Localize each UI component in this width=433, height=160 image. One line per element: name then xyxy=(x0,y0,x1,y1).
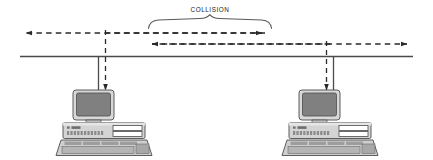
disk-drive-bay-upper xyxy=(113,126,142,131)
keyboard-main-area xyxy=(62,147,134,154)
front-panel-badge xyxy=(298,126,307,129)
keyboard-numpad xyxy=(136,144,149,154)
diagram-canvas: COLLISION xyxy=(0,0,433,160)
disk-drive-bay-lower xyxy=(113,132,142,137)
monitor-screen xyxy=(77,93,111,116)
station-right xyxy=(282,41,378,156)
station-left-computer xyxy=(56,90,152,156)
disk-drive-bay-lower xyxy=(339,132,368,137)
disk-drive-bay-upper xyxy=(339,126,368,131)
system-unit-top-strip xyxy=(289,123,371,126)
power-led xyxy=(67,127,70,129)
front-panel-badge xyxy=(72,126,81,129)
keyboard-main-area xyxy=(288,147,360,154)
system-unit-top-strip xyxy=(63,123,145,126)
collision-region-brace xyxy=(149,15,272,29)
chassis-vent-grille xyxy=(293,131,329,135)
station-right-computer xyxy=(282,90,378,156)
monitor-screen xyxy=(303,93,337,116)
collision-diagram: COLLISION xyxy=(0,0,433,160)
chassis-vent-grille xyxy=(67,131,103,135)
keyboard-numpad xyxy=(362,144,375,154)
station-left xyxy=(56,30,152,156)
signal-arrows xyxy=(26,33,407,44)
collision-annotation: COLLISION xyxy=(149,6,272,29)
power-led xyxy=(293,127,296,129)
collision-label: COLLISION xyxy=(190,6,229,13)
